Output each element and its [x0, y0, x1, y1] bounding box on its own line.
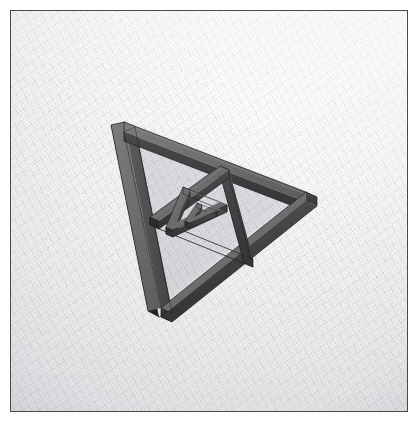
- model-svg: [11, 11, 407, 411]
- recursive-triangle-model: [11, 11, 407, 411]
- render-frame-border: [10, 10, 408, 412]
- render-viewport: [0, 0, 419, 423]
